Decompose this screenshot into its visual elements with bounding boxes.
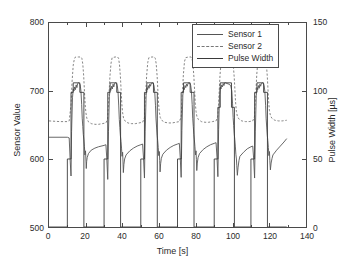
- x-tick-0: 0: [46, 232, 51, 241]
- x-tick-140: 140: [300, 232, 314, 241]
- legend-item-sensor-2[interactable]: Sensor 2: [197, 40, 273, 52]
- legend-swatch-solid-line-icon: [197, 30, 223, 39]
- y-axis-left-title: Sensor Value: [12, 85, 22, 175]
- y-tick-left-700: 700: [22, 86, 44, 95]
- x-tick-60: 60: [154, 232, 163, 241]
- legend-swatch-dashed-line-icon: [197, 42, 223, 51]
- legend-item-pulse-width[interactable]: Pulse Width: [197, 52, 273, 64]
- legend-label: Sensor 1: [228, 29, 262, 39]
- chart-figure: Time [s] Sensor Value Pulse Width [µs] S…: [0, 0, 345, 266]
- x-tick-20: 20: [80, 232, 89, 241]
- y-tick-right-50: 50: [313, 155, 337, 164]
- y-tick-left-600: 600: [22, 155, 44, 164]
- y-tick-right-100: 100: [313, 86, 337, 95]
- x-tick-120: 120: [263, 232, 277, 241]
- x-axis-title: Time [s]: [0, 246, 345, 256]
- x-tick-80: 80: [191, 232, 200, 241]
- y-tick-right-150: 150: [313, 18, 337, 27]
- chart-legend: Sensor 1Sensor 2Pulse Width: [192, 24, 279, 68]
- x-tick-100: 100: [226, 232, 240, 241]
- y-tick-left-800: 800: [22, 18, 44, 27]
- x-tick-40: 40: [117, 232, 126, 241]
- legend-swatch-solid-line-icon: [197, 54, 223, 63]
- y-tick-right-0: 0: [313, 224, 337, 233]
- legend-label: Pulse Width: [228, 53, 273, 63]
- legend-item-sensor-1[interactable]: Sensor 1: [197, 28, 273, 40]
- y-tick-left-500: 500: [22, 224, 44, 233]
- legend-label: Sensor 2: [228, 41, 262, 51]
